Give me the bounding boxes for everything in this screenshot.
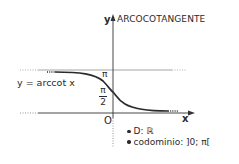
property-codomain: codominio: ]0; π[: [127, 137, 210, 148]
property-domain: D: ℝ: [127, 126, 210, 137]
curve-label: y = arccot x: [17, 78, 75, 88]
bullet-icon: [127, 140, 131, 144]
properties-list: D: ℝ codominio: ]0; π[: [127, 126, 210, 147]
x-axis-arrow-icon: [188, 111, 195, 116]
property-codomain-text: codominio: ]0; π[: [134, 137, 211, 148]
property-domain-text: D: ℝ: [134, 126, 154, 137]
half-pi-denominator: 2: [100, 98, 106, 107]
bullet-icon: [127, 130, 131, 134]
tick-pi-label: π: [102, 70, 107, 79]
y-axis-arrow-icon: [111, 14, 116, 21]
y-axis-label: y: [104, 15, 111, 25]
half-pi-numerator: π: [100, 86, 105, 95]
graph-title: ARCOCOTANGENTE: [117, 15, 205, 24]
x-axis-label: x: [182, 114, 188, 124]
origin-label: O: [104, 116, 112, 126]
tick-half-pi-label: π 2: [99, 86, 107, 107]
